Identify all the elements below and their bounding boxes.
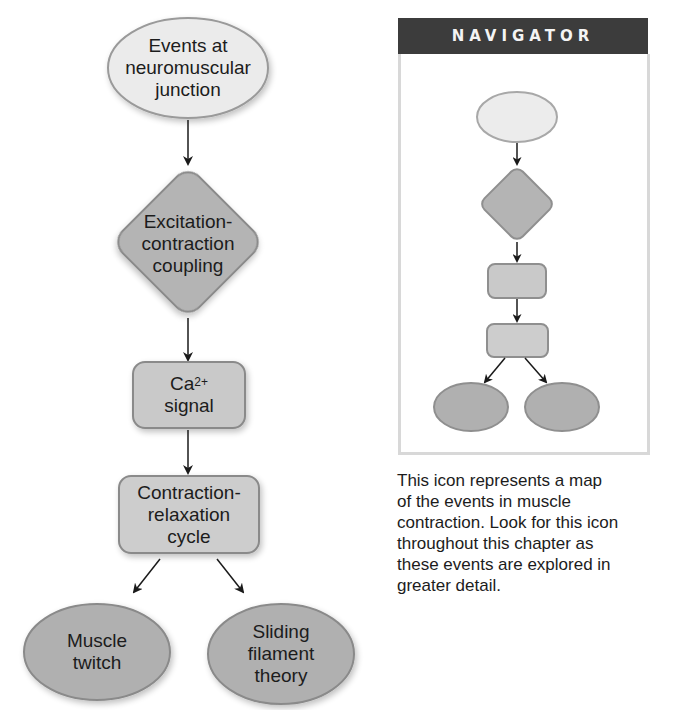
navigator-title: NAVIGATOR (398, 18, 648, 54)
nav-arrow-4 (485, 358, 505, 382)
label-muscle-twitch: Muscle twitch (24, 604, 170, 700)
nav-arrow-5 (525, 358, 546, 382)
navigator-caption: This icon represents a map of the events… (397, 470, 682, 596)
nav-icon-ellipse-right (525, 383, 599, 431)
nav-icon-rect-2 (487, 324, 548, 357)
nav-icon-rect-1 (488, 264, 546, 298)
nav-icon-ellipse-left (434, 383, 508, 431)
label-excitation-contraction-coupling: Excitation- contraction coupling (118, 198, 258, 290)
arrow-5 (217, 559, 243, 592)
label-neuromuscular-junction: Events at neuromuscular junction (108, 22, 268, 114)
label-sliding-filament-theory: Sliding filament theory (208, 604, 354, 704)
nav-icon-diamond (479, 166, 555, 242)
navigator-map-icon (434, 92, 599, 431)
label-contraction-relaxation-cycle: Contraction- relaxation cycle (119, 476, 259, 553)
label-ca-signal: Ca2+ signal (133, 362, 245, 428)
arrow-4 (134, 559, 160, 592)
nav-icon-ellipse-top (477, 92, 557, 142)
